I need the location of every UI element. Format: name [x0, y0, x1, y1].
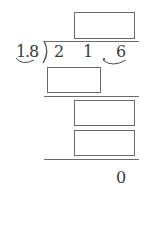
subtraction-line-1 [44, 96, 139, 97]
remainder-zero: 0 [116, 170, 126, 186]
step2-partial-box[interactable] [74, 100, 135, 126]
dividend-digit-1: 1 [83, 44, 93, 60]
divisor-digit-8: 8 [29, 44, 39, 60]
step2-product-box[interactable] [74, 130, 135, 156]
dividend-digit-2: 2 [54, 44, 64, 60]
dividend-digit-6: 6 [116, 44, 126, 60]
step1-product-box[interactable] [47, 67, 101, 93]
subtraction-line-2 [44, 159, 139, 160]
